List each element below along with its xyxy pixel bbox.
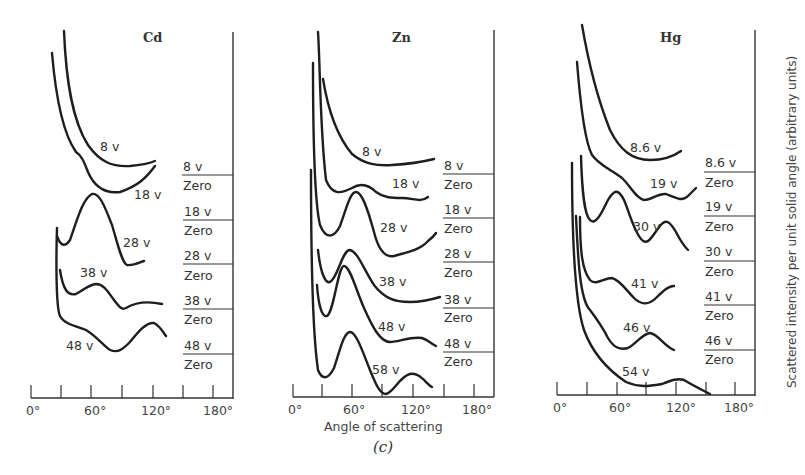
curve-label: 28 v — [123, 235, 151, 250]
svg-text:Zero: Zero — [183, 178, 212, 193]
svg-text:Zero: Zero — [184, 312, 213, 327]
x-tick-label: 120° — [401, 402, 431, 417]
curve-label: 8 v — [100, 139, 120, 154]
curve-cd-28v — [57, 194, 144, 265]
curve-label: 30 v — [633, 219, 661, 234]
curve-hg-30v — [581, 156, 688, 250]
curve-label: 46 v — [623, 320, 651, 335]
svg-text:Zero: Zero — [705, 264, 734, 279]
x-tick-label: 120° — [141, 403, 171, 418]
svg-text:19 v: 19 v — [705, 199, 733, 214]
svg-text:Zero: Zero — [184, 357, 213, 372]
panel-title-hg: Hg — [660, 30, 681, 45]
curve-label: 48 v — [378, 319, 406, 334]
svg-text:Zero: Zero — [705, 352, 734, 367]
panel-cd: Cd 0° 60° 120° 180° 8 v Zero 18 v Zero 2… — [26, 30, 233, 418]
svg-text:28 v: 28 v — [184, 248, 212, 263]
svg-text:8.6 v: 8.6 v — [705, 155, 737, 170]
x-tick-label: 180° — [203, 403, 233, 418]
x-tick-label: 60° — [609, 400, 631, 415]
panel-title-cd: Cd — [143, 30, 162, 45]
svg-text:41 v: 41 v — [705, 289, 733, 304]
curve-label: 54 v — [622, 364, 650, 379]
x-ticks — [31, 385, 213, 398]
svg-text:46 v: 46 v — [705, 333, 733, 348]
svg-text:18 v: 18 v — [184, 204, 212, 219]
svg-text:28 v: 28 v — [444, 246, 472, 261]
x-ticks — [293, 384, 474, 397]
x-tick-label: 120° — [666, 400, 696, 415]
x-tick-label: 0° — [288, 402, 302, 417]
curve-label: 28 v — [380, 220, 408, 235]
svg-text:8 v: 8 v — [183, 159, 203, 174]
x-tick-label: 0° — [26, 403, 40, 418]
curve-label: 8.6 v — [630, 140, 662, 155]
zero-markers: 8 v Zero 18 v Zero 28 v Zero 38 v Zero 4… — [443, 158, 494, 369]
svg-text:48 v: 48 v — [444, 336, 472, 351]
curve-zn-28v — [313, 63, 436, 256]
svg-text:Zero: Zero — [444, 265, 473, 280]
curve-label: 19 v — [650, 176, 678, 191]
svg-text:Zero: Zero — [705, 175, 734, 190]
svg-text:Zero: Zero — [444, 221, 473, 236]
svg-text:Zero: Zero — [444, 177, 473, 192]
curve-label: 41 v — [631, 276, 659, 291]
panel-title-zn: Zn — [392, 30, 411, 45]
x-tick-label: 180° — [462, 402, 492, 417]
svg-text:18 v: 18 v — [444, 202, 472, 217]
svg-text:48 v: 48 v — [184, 338, 212, 353]
x-tick-label: 60° — [343, 402, 365, 417]
x-axis-label: Angle of scattering — [324, 419, 443, 434]
y-axis-label: Scattered intensity per unit solid angle… — [785, 56, 799, 388]
svg-text:8 v: 8 v — [444, 158, 464, 173]
svg-text:38 v: 38 v — [444, 292, 472, 307]
curve-label: 58 v — [372, 362, 400, 377]
curve-label: 38 v — [379, 274, 407, 289]
curve-label: 18 v — [392, 176, 420, 191]
x-tick-label: 0° — [553, 400, 567, 415]
curve-label: 18 v — [134, 187, 162, 202]
panel-zn: Zn 0° 60° 120° 180° Angle of scattering … — [288, 30, 494, 456]
svg-text:30 v: 30 v — [705, 244, 733, 259]
svg-text:Zero: Zero — [705, 219, 734, 234]
panel-hg: Hg 0° 60° 120° 180° 8.6 v Zero 19 v Zero… — [553, 25, 755, 415]
scattering-figure: Cd 0° 60° 120° 180° 8 v Zero 18 v Zero 2… — [0, 0, 805, 475]
svg-text:Zero: Zero — [184, 268, 213, 283]
svg-text:38 v: 38 v — [184, 293, 212, 308]
curve-cd-38v — [60, 270, 162, 309]
zero-markers: 8.6 v Zero 19 v Zero 30 v Zero 41 v Zero… — [704, 155, 755, 367]
svg-text:Zero: Zero — [444, 310, 473, 325]
figure-caption: (c) — [373, 438, 393, 456]
curve-zn-18v — [318, 32, 428, 200]
curve-label: 8 v — [362, 144, 382, 159]
curve-label: 38 v — [80, 265, 108, 280]
svg-text:Zero: Zero — [705, 308, 734, 323]
zero-markers: 8 v Zero 18 v Zero 28 v Zero 38 v Zero 4… — [182, 159, 233, 372]
svg-text:Zero: Zero — [444, 354, 473, 369]
x-tick-label: 60° — [84, 403, 106, 418]
curve-label: 48 v — [66, 338, 94, 353]
x-tick-label: 180° — [724, 400, 754, 415]
svg-text:Zero: Zero — [184, 223, 213, 238]
